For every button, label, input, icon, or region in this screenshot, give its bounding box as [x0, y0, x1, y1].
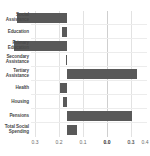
x-tick-0.4: 0.4 — [142, 139, 149, 146]
y-axis-category-labels: Social Assistance Education Primary Educ… — [0, 11, 29, 137]
bar-education[interactable] — [62, 27, 67, 37]
bar-row-total-social-spending — [31, 123, 147, 137]
bar-housing[interactable] — [63, 97, 67, 107]
x-axis-right-ticks: 0.3 0.4 — [0, 139, 150, 149]
y-label-secondary-assistance: Secondary Assistance — [0, 54, 29, 64]
bar-total-social-spending[interactable] — [67, 125, 77, 135]
bar-row-health — [31, 81, 147, 95]
y-label-primary-education: Primary Education — [0, 40, 29, 50]
y-label-education: Education — [0, 29, 29, 34]
y-label-social-assistance: Social Assistance — [0, 12, 29, 22]
horizontal-bar-chart: Social Assistance Education Primary Educ… — [0, 0, 150, 156]
bar-pensions[interactable] — [67, 111, 132, 121]
bar-row-primary-education — [31, 39, 147, 53]
plot-area — [31, 11, 147, 137]
bar-secondary-assistance[interactable] — [66, 55, 67, 65]
bar-row-tertiary-assistance — [31, 67, 147, 81]
y-label-total-social-spending: Total Social Spending — [0, 124, 29, 134]
y-label-pensions: Pensions — [0, 113, 29, 118]
bar-tertiary-assistance[interactable] — [67, 69, 137, 79]
bar-row-secondary-assistance — [31, 53, 147, 67]
y-label-tertiary-assistance: Tertiary Assistance — [0, 68, 29, 78]
bar-row-housing — [31, 95, 147, 109]
bar-row-social-assistance — [31, 11, 147, 25]
y-label-health: Health — [0, 85, 29, 90]
x-tick-0.3: 0.3 — [128, 139, 135, 146]
bar-health[interactable] — [60, 83, 67, 93]
bar-row-education — [31, 25, 147, 39]
bar-row-pensions — [31, 109, 147, 123]
y-label-housing: Housing — [0, 99, 29, 104]
